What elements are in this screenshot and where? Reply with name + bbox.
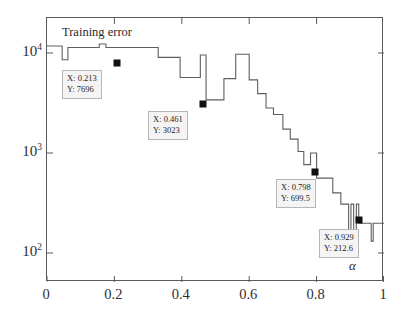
x-tick-0-8: 0.8 <box>307 287 325 302</box>
x-tick-0: 0 <box>42 287 49 302</box>
y-tick-exponent: 4 <box>37 42 42 52</box>
x-tick-1: 1 <box>379 287 386 302</box>
datatip-3-x: X: 0.798 <box>281 182 311 193</box>
y-tick-mantissa: 10 <box>22 243 37 259</box>
datatip-marker-4[interactable] <box>356 217 363 224</box>
y-tick-10e2: 102 <box>22 244 42 259</box>
datatip-4-x: X: 0.929 <box>324 232 354 243</box>
datatip-4-y: Y: 212.6 <box>324 243 354 254</box>
datatip-marker-3[interactable] <box>312 169 319 176</box>
datatip-4[interactable]: X: 0.929 Y: 212.6 <box>319 229 359 258</box>
datatip-marker-1[interactable] <box>114 60 121 67</box>
datatip-2-x: X: 0.461 <box>153 114 183 125</box>
x-tick-0-4: 0.4 <box>172 287 190 302</box>
x-axis-label: α <box>349 258 356 274</box>
x-tick-0-2: 0.2 <box>104 287 122 302</box>
datatip-2[interactable]: X: 0.461 Y: 3023 <box>148 111 188 140</box>
datatip-3[interactable]: X: 0.798 Y: 699.5 <box>276 179 316 208</box>
datatip-marker-2[interactable] <box>200 101 207 108</box>
y-tick-10e4: 104 <box>22 44 42 59</box>
datatip-1-y: Y: 7696 <box>67 84 97 95</box>
y-tick-mantissa: 10 <box>22 43 37 59</box>
plot-title: Training error <box>62 25 132 40</box>
y-tick-exponent: 2 <box>37 242 42 252</box>
datatip-1-x: X: 0.213 <box>67 73 97 84</box>
y-axis-tick-labels: 104 103 102 <box>0 0 42 323</box>
y-tick-exponent: 3 <box>37 142 42 152</box>
x-tick-0-6: 0.6 <box>239 287 257 302</box>
datatip-1[interactable]: X: 0.213 Y: 7696 <box>62 70 102 99</box>
datatip-2-y: Y: 3023 <box>153 125 183 136</box>
figure-canvas: 104 103 102 0 0.2 0.4 0.6 0.8 1 <box>0 0 412 323</box>
datatip-3-y: Y: 699.5 <box>281 193 311 204</box>
y-tick-mantissa: 10 <box>22 143 37 159</box>
y-tick-10e3: 103 <box>22 144 42 159</box>
